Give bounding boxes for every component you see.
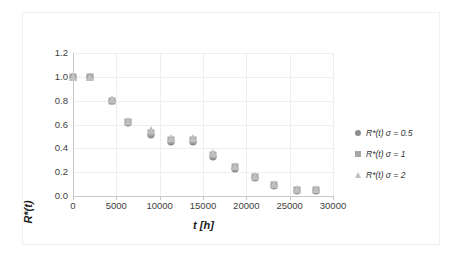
- legend-item-label: R*(t) σ = 2: [366, 170, 405, 180]
- chart-root: 0.00.20.40.60.81.01.2 050001000015000200…: [0, 0, 465, 267]
- legend-swatch: [355, 172, 361, 178]
- data-point: [209, 149, 217, 157]
- legend-swatch: [355, 151, 361, 157]
- gridline-v-4: [246, 53, 247, 196]
- legend-marker-square-icon: [352, 151, 364, 157]
- data-point: [124, 117, 132, 125]
- marker-triangle-icon: [167, 134, 175, 142]
- legend-marker-circle-icon: [352, 130, 364, 136]
- marker-triangle-icon: [86, 73, 94, 81]
- marker-triangle-icon: [108, 95, 116, 103]
- marker-triangle-icon: [124, 117, 132, 125]
- legend-item[interactable]: R*(t) σ = 2: [352, 164, 436, 185]
- legend-item-label: R*(t) σ = 1: [366, 149, 405, 159]
- data-point: [108, 95, 116, 103]
- marker-triangle-icon: [231, 162, 239, 170]
- data-point: [251, 172, 259, 180]
- marker-triangle-icon: [251, 172, 259, 180]
- x-axis-title: t [h]: [73, 219, 334, 231]
- y-tick-label: 0.2: [28, 167, 68, 177]
- legend-item[interactable]: R*(t) σ = 1: [352, 143, 436, 164]
- y-tick-label: 1.2: [28, 48, 68, 58]
- marker-triangle-icon: [209, 149, 217, 157]
- marker-triangle-icon: [293, 185, 301, 193]
- gridline-v-6: [333, 53, 334, 196]
- data-point: [312, 185, 320, 193]
- y-axis-line: [73, 53, 74, 197]
- data-point: [231, 162, 239, 170]
- legend-swatch: [355, 130, 361, 136]
- legend-item-label: R*(t) σ = 0.5: [366, 128, 412, 138]
- marker-triangle-icon: [147, 126, 155, 134]
- y-tick-label: 1.0: [28, 72, 68, 82]
- gridline-v-5: [290, 53, 291, 196]
- marker-triangle-icon: [189, 134, 197, 142]
- gridline-v-1: [116, 53, 117, 196]
- data-point: [86, 73, 94, 81]
- gridline-v-3: [203, 53, 204, 196]
- chart-legend: R*(t) σ = 0.5R*(t) σ = 1R*(t) σ = 2: [352, 122, 436, 185]
- gridline-v-2: [160, 53, 161, 196]
- data-point: [293, 185, 301, 193]
- y-axis-title-wrap: R*(t): [22, 96, 44, 156]
- data-point: [189, 134, 197, 142]
- data-point: [167, 134, 175, 142]
- data-point: [147, 126, 155, 134]
- marker-triangle-icon: [270, 180, 278, 188]
- legend-item[interactable]: R*(t) σ = 0.5: [352, 122, 436, 143]
- plot-area: [73, 53, 333, 196]
- y-axis-title: R*(t): [22, 200, 34, 223]
- data-point: [270, 180, 278, 188]
- x-tick-label: 30000: [303, 200, 363, 211]
- legend-marker-triangle-icon: [352, 172, 364, 178]
- marker-triangle-icon: [312, 185, 320, 193]
